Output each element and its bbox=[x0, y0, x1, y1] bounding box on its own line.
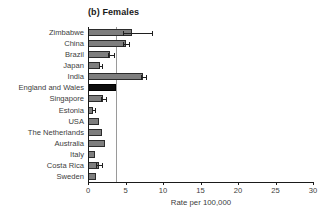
plot-area bbox=[88, 27, 313, 182]
error-cap-low bbox=[96, 163, 97, 168]
x-tick bbox=[163, 182, 164, 185]
x-tick bbox=[276, 182, 277, 185]
x-tick-label: 0 bbox=[76, 186, 100, 195]
x-tick bbox=[126, 182, 127, 185]
error-cap-high bbox=[106, 97, 107, 102]
y-axis-label-sweden: Sweden bbox=[57, 171, 84, 182]
bar-australia bbox=[88, 140, 105, 147]
x-tick bbox=[313, 182, 314, 185]
x-tick-label: 15 bbox=[189, 186, 213, 195]
x-tick-label: 30 bbox=[301, 186, 325, 195]
y-axis-label-costa-rica: Costa Rica bbox=[47, 160, 84, 171]
error-cap-high bbox=[152, 31, 153, 36]
bar-sweden bbox=[88, 173, 96, 180]
error-cap-low bbox=[123, 42, 124, 47]
bar-brazil bbox=[88, 51, 110, 58]
error-cap-high bbox=[146, 75, 147, 80]
error-cap-high bbox=[102, 64, 103, 69]
error-cap-low bbox=[101, 97, 102, 102]
y-axis-label-china: China bbox=[64, 38, 84, 49]
bar-italy bbox=[88, 151, 95, 158]
y-axis-label-england-and-wales: England and Wales bbox=[18, 82, 84, 93]
y-axis-label-italy: Italy bbox=[70, 149, 84, 160]
error-bar-zimbabwe bbox=[123, 33, 152, 34]
chart-title: (b) Females bbox=[88, 7, 248, 17]
y-axis-label-brazil: Brazil bbox=[65, 49, 84, 60]
error-cap-low bbox=[108, 53, 109, 58]
y-axis-label-the-netherlands: The Netherlands bbox=[28, 127, 84, 138]
y-axis-label-singapore: Singapore bbox=[49, 93, 84, 104]
error-cap-high bbox=[114, 53, 115, 58]
bar-the-netherlands bbox=[88, 129, 102, 136]
y-axis-label-zimbabwe: Zimbabwe bbox=[49, 27, 84, 38]
x-tick-label: 25 bbox=[264, 186, 288, 195]
y-axis-label-usa: USA bbox=[68, 116, 84, 127]
error-cap-low bbox=[123, 31, 124, 36]
x-axis-title: Rate per 100,000 bbox=[88, 198, 314, 207]
bar-china bbox=[88, 40, 126, 47]
x-tick bbox=[88, 182, 89, 185]
y-axis-category-labels: ZimbabweChinaBrazilJapanIndiaEngland and… bbox=[0, 27, 86, 182]
reference-line bbox=[116, 27, 117, 182]
bar-chart-figure: (b) Females ZimbabweChinaBrazilJapanIndi… bbox=[0, 0, 330, 213]
y-axis-label-estonia: Estonia bbox=[59, 105, 84, 116]
y-axis-label-india: India bbox=[68, 71, 84, 82]
bar-usa bbox=[88, 118, 99, 125]
x-tick bbox=[238, 182, 239, 185]
x-tick-label: 20 bbox=[226, 186, 250, 195]
bar-england-and-wales bbox=[88, 84, 116, 91]
error-cap-low bbox=[92, 108, 93, 113]
error-cap-high bbox=[102, 163, 103, 168]
error-cap-low bbox=[99, 64, 100, 69]
error-cap-high bbox=[129, 42, 130, 47]
x-tick-label: 5 bbox=[114, 186, 138, 195]
bar-india bbox=[88, 73, 143, 80]
error-cap-high bbox=[95, 108, 96, 113]
y-axis-label-australia: Australia bbox=[54, 138, 84, 149]
error-cap-low bbox=[141, 75, 142, 80]
y-axis-label-japan: Japan bbox=[63, 60, 84, 71]
x-tick-label: 10 bbox=[151, 186, 175, 195]
y-axis-line bbox=[88, 27, 89, 182]
x-tick bbox=[201, 182, 202, 185]
